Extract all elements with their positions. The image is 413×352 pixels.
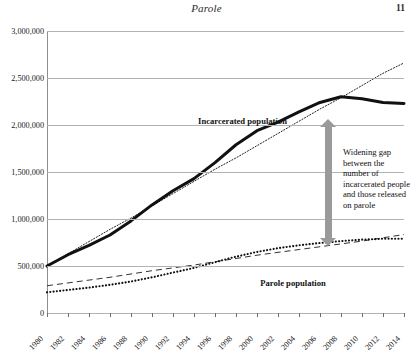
y-axis-tick-label: 1,500,000 bbox=[11, 168, 44, 177]
annotation-parole: Parole population bbox=[243, 278, 343, 288]
gridline bbox=[47, 266, 404, 267]
x-axis-tick-label: 1994 bbox=[174, 334, 192, 352]
y-axis-labels: 0500,0001,000,0001,500,0002,000,0002,500… bbox=[0, 31, 44, 313]
x-axis-tick-label: 2006 bbox=[300, 334, 318, 352]
x-axis-tick bbox=[362, 313, 363, 317]
y-axis-tick-label: 0 bbox=[40, 309, 44, 318]
x-axis-tick-label: 1996 bbox=[195, 334, 213, 352]
x-axis-tick-label: 2010 bbox=[342, 334, 360, 352]
x-axis-tick bbox=[341, 313, 342, 317]
y-axis-tick-label: 2,500,000 bbox=[11, 74, 44, 83]
x-axis-tick-label: 1982 bbox=[48, 334, 66, 352]
x-axis-tick bbox=[68, 313, 69, 317]
x-axis-tick bbox=[194, 313, 195, 317]
annotation-widening-gap: Widening gap between the number of incar… bbox=[343, 147, 411, 211]
page-number: 11 bbox=[396, 3, 405, 13]
running-head: Parole 11 bbox=[0, 2, 413, 18]
y-axis-tick-label: 500,000 bbox=[17, 262, 44, 271]
gap-arrow-head-down bbox=[320, 238, 336, 246]
x-axis-tick bbox=[152, 313, 153, 317]
gridline bbox=[47, 219, 404, 220]
annotation-incarcerated: Incarcerated population bbox=[185, 116, 300, 126]
x-axis-tick bbox=[215, 313, 216, 317]
running-head-title: Parole bbox=[0, 2, 413, 14]
x-axis-tick bbox=[278, 313, 279, 317]
x-axis-tick-label: 2002 bbox=[258, 334, 276, 352]
x-axis-tick-label: 1990 bbox=[132, 334, 150, 352]
gridline bbox=[47, 313, 404, 314]
x-axis-tick-label: 2014 bbox=[384, 334, 402, 352]
x-axis-tick bbox=[404, 313, 405, 317]
chart-container: 0500,0001,000,0001,500,0002,000,0002,500… bbox=[0, 20, 413, 341]
x-axis-tick bbox=[173, 313, 174, 317]
x-axis-tick-label: 1980 bbox=[27, 334, 45, 352]
x-axis-tick-label: 2008 bbox=[321, 334, 339, 352]
x-axis-tick bbox=[299, 313, 300, 317]
x-axis-tick bbox=[131, 313, 132, 317]
x-axis-tick bbox=[236, 313, 237, 317]
x-axis-tick bbox=[47, 313, 48, 317]
x-axis-tick-label: 1988 bbox=[111, 334, 129, 352]
y-axis-tick-label: 2,000,000 bbox=[11, 121, 44, 130]
y-axis-tick-label: 3,000,000 bbox=[11, 27, 44, 36]
gap-arrow-shaft bbox=[325, 126, 332, 239]
x-axis-tick bbox=[110, 313, 111, 317]
x-axis-tick-label: 1992 bbox=[153, 334, 171, 352]
x-axis-tick bbox=[320, 313, 321, 317]
x-axis-tick-label: 1986 bbox=[90, 334, 108, 352]
x-axis-tick-label: 1984 bbox=[69, 334, 87, 352]
x-axis-tick bbox=[89, 313, 90, 317]
gridline bbox=[47, 31, 404, 32]
y-axis-tick-label: 1,000,000 bbox=[11, 215, 44, 224]
x-axis-tick bbox=[257, 313, 258, 317]
x-axis-tick bbox=[383, 313, 384, 317]
x-axis-tick-label: 2004 bbox=[279, 334, 297, 352]
x-axis-tick-label: 2012 bbox=[363, 334, 381, 352]
x-axis-tick-label: 1998 bbox=[216, 334, 234, 352]
x-axis-tick-label: 2000 bbox=[237, 334, 255, 352]
gridline bbox=[47, 78, 404, 79]
